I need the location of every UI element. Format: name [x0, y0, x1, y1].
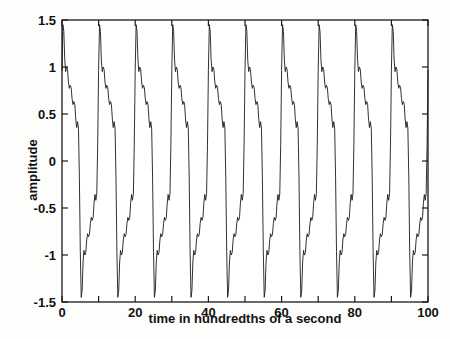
plot-canvas — [0, 0, 450, 339]
y-tick-label: 1 — [6, 61, 56, 74]
y-tick-label: 1.5 — [6, 14, 56, 27]
x-tick-label: 20 — [128, 306, 142, 319]
y-tick-label: -1 — [6, 249, 56, 262]
y-tick-label: -0.5 — [6, 202, 56, 215]
x-axis-label: time in hundredths of a second — [149, 311, 342, 326]
y-axis-label: amplitude — [25, 139, 40, 200]
x-tick-label: 80 — [348, 306, 362, 319]
y-tick-label: 0.5 — [6, 108, 56, 121]
x-tick-label: 0 — [58, 306, 65, 319]
chart-figure: 1.510.50-0.5-1-1.5 020406080100 amplitud… — [0, 0, 450, 339]
x-tick-label: 100 — [417, 306, 439, 319]
y-tick-label: -1.5 — [6, 296, 56, 309]
